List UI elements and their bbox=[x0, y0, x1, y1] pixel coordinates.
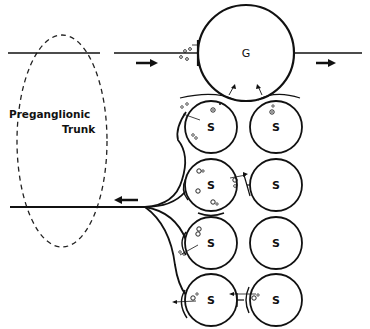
svg-text:S: S bbox=[272, 294, 280, 307]
lower-axon bbox=[10, 112, 188, 318]
ganglion-cell-g: G bbox=[180, 5, 300, 101]
svg-text:S: S bbox=[272, 237, 280, 250]
small-cell-s4-right: S bbox=[229, 274, 302, 326]
arrow-right-icon bbox=[316, 59, 336, 67]
small-cell-s3-left: S bbox=[179, 213, 237, 269]
svg-text:S: S bbox=[207, 179, 215, 192]
label-preganglionic: Preganglionic bbox=[9, 108, 90, 120]
svg-text:G: G bbox=[242, 47, 251, 60]
small-cell-s2-right: S bbox=[230, 159, 302, 211]
svg-text:S: S bbox=[207, 121, 215, 134]
label-trunk: Trunk bbox=[62, 123, 96, 135]
small-cell-s1-left: S bbox=[181, 101, 237, 153]
svg-text:S: S bbox=[207, 294, 215, 307]
svg-text:S: S bbox=[272, 121, 280, 134]
small-cell-s2-left: S bbox=[185, 159, 237, 211]
top-axon bbox=[8, 40, 362, 66]
arrow-right-icon bbox=[136, 59, 158, 67]
svg-text:S: S bbox=[207, 237, 215, 250]
small-cell-s3-right: S bbox=[250, 217, 302, 269]
svg-text:S: S bbox=[272, 179, 280, 192]
arrow-left-icon bbox=[114, 196, 138, 204]
small-cell-s1-right: S bbox=[250, 101, 302, 153]
diagram-canvas: G S S bbox=[0, 0, 370, 329]
preganglionic-trunk-outline bbox=[17, 35, 107, 247]
